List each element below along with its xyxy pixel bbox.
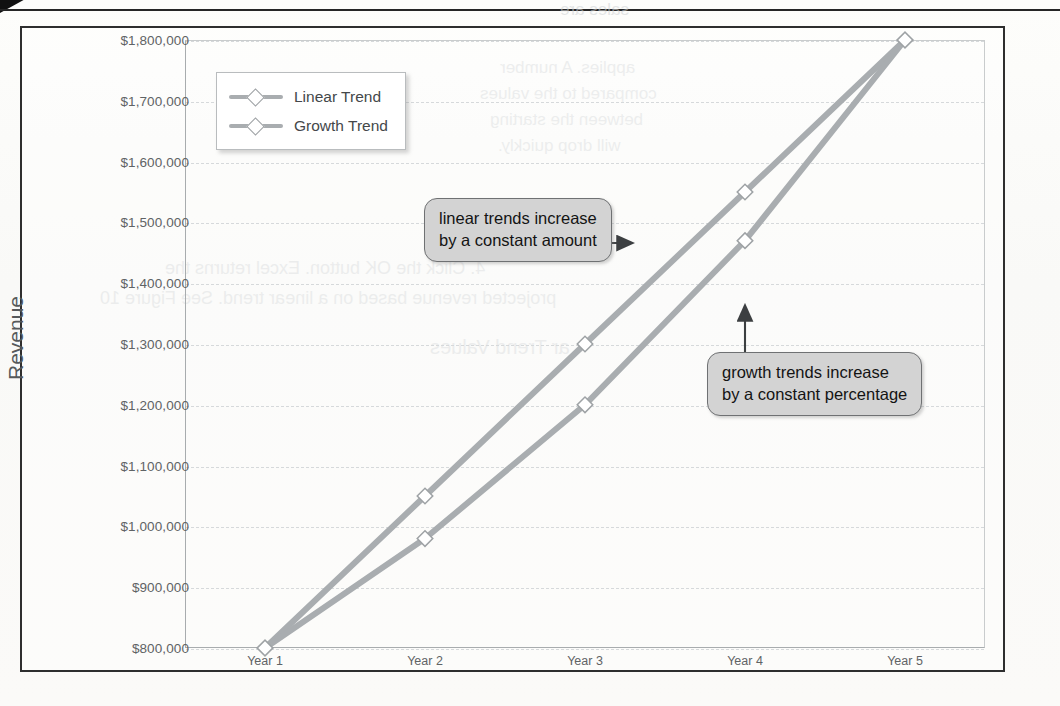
gridline [186, 163, 984, 164]
line-marker-icon [229, 90, 283, 104]
line-marker-icon [229, 119, 283, 133]
scanned-page: sales are applies. A number compared to … [0, 0, 1060, 706]
y-axis-tick-label: $900,000 [132, 580, 189, 595]
x-axis-tick-label: Year 3 [567, 654, 603, 668]
y-axis-tick-label: $1,800,000 [120, 33, 189, 48]
page-top-rule [0, 9, 1060, 11]
y-axis-tick-label: $1,300,000 [120, 337, 189, 352]
gridline [186, 649, 984, 650]
gridline [186, 345, 984, 346]
y-axis-tick-label: $1,000,000 [120, 519, 189, 534]
y-axis-tick-label: $1,500,000 [120, 215, 189, 230]
gridline [186, 527, 984, 528]
revenue-trend-chart: Revenue $800,000$900,000$1,000,000$1,100… [20, 26, 1005, 672]
legend-item-linear[interactable]: Linear Trend [229, 82, 388, 111]
gridline [186, 41, 984, 42]
gridline [186, 467, 984, 468]
x-axis-tick-label: Year 1 [247, 654, 283, 668]
x-axis-tick-label: Year 2 [407, 654, 443, 668]
legend-item-growth[interactable]: Growth Trend [229, 111, 388, 140]
y-axis-tick-label: $1,400,000 [120, 276, 189, 291]
legend-label: Linear Trend [294, 88, 381, 106]
callout-linear-trend: linear trends increase by a constant amo… [424, 198, 612, 262]
chart-legend[interactable]: Linear Trend Growth Trend [216, 72, 406, 150]
y-axis-tick-label: $1,200,000 [120, 397, 189, 412]
x-axis-tick-label: Year 4 [727, 654, 763, 668]
gridline [186, 284, 984, 285]
gridline [186, 588, 984, 589]
y-axis-tick-label: $800,000 [132, 641, 189, 656]
y-axis-tick-label: $1,100,000 [120, 458, 189, 473]
callout-growth-trend: growth trends increase by a constant per… [707, 352, 922, 416]
x-axis-tick-label: Year 5 [887, 654, 923, 668]
y-axis-tick-label: $1,600,000 [120, 154, 189, 169]
y-axis-tick-label: $1,700,000 [120, 93, 189, 108]
legend-label: Growth Trend [294, 117, 388, 135]
y-axis-title: Revenue [4, 296, 28, 380]
page-corner-mark [0, 0, 32, 14]
